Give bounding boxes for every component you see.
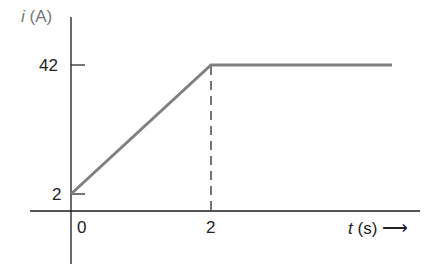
y-axis-var: i (21, 7, 25, 26)
x-axis-var: t (348, 219, 353, 238)
xtick-label-0: 0 (77, 219, 86, 236)
ytick-label-2: 2 (52, 186, 61, 203)
y-axis-unit: (A) (30, 7, 53, 26)
arrow-right-icon: ⟶ (382, 218, 408, 238)
ytick-label-42: 42 (39, 57, 58, 74)
x-axis-label: t (s) ⟶ (348, 219, 408, 237)
y-axis-label: i (A) (21, 8, 52, 25)
xtick-label-2: 2 (206, 219, 215, 236)
current-curve (71, 65, 392, 194)
x-axis-unit: (s) (357, 219, 377, 238)
